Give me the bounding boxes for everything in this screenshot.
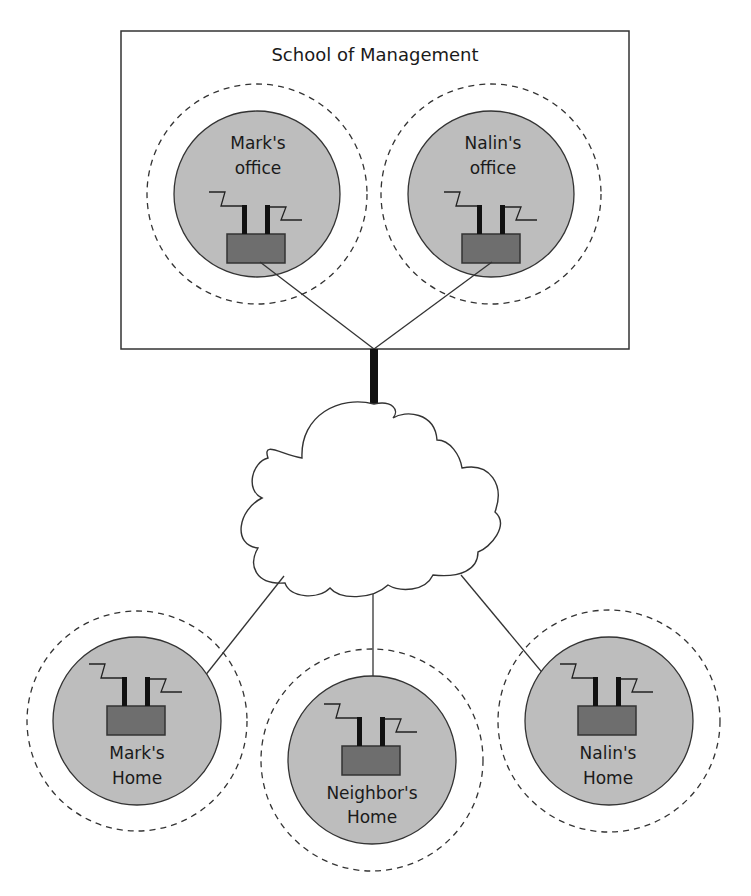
node-label-line2: Home (347, 807, 397, 827)
backbone-link (370, 349, 378, 405)
zone-nalins-home: Nalin's Home (498, 610, 720, 832)
node-label-line1: Neighbor's (326, 783, 417, 803)
node-label-line1: Nalin's (580, 743, 637, 763)
network-diagram: School of Management Mark's office Nalin… (0, 0, 751, 896)
zone-neighbors-home: Neighbor's Home (261, 649, 483, 871)
building-title: School of Management (271, 44, 478, 65)
node-label-line1: Mark's (230, 133, 286, 153)
zone-marks-home: Mark's Home (27, 611, 247, 831)
node-label-line2: office (470, 158, 517, 178)
node-label-line1: Mark's (109, 743, 165, 763)
cloud-icon (241, 402, 500, 597)
node-label-line2: office (235, 158, 282, 178)
node-label-line2: Home (112, 768, 162, 788)
node-label-line2: Home (583, 768, 633, 788)
node-label-line1: Nalin's (465, 133, 522, 153)
